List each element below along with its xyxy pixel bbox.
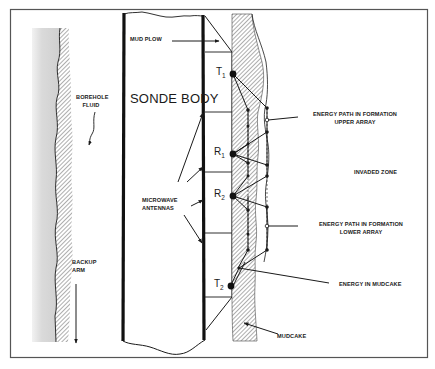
mudcake-label: MUDCAKE [277, 332, 306, 340]
antenna-subscript: 2 [220, 284, 224, 291]
antenna-r1 [230, 151, 237, 158]
antenna-label-r1: R1 [214, 146, 225, 159]
microwave-antennas-label-line1: MICROWAVE [142, 196, 178, 204]
antenna-r2 [230, 193, 237, 200]
mud-plow-label: MUD PLOW [130, 35, 162, 43]
backup-arm-label: BACKUP ARM [72, 258, 97, 274]
borehole-fluid-arrow [89, 112, 95, 145]
mudcake-band [232, 14, 264, 341]
borehole-fluid-label-line1: BOREHOLE [76, 93, 106, 101]
energy-lower-label: ENERGY PATH IN FORMATION LOWER ARRAY [306, 220, 416, 236]
borehole-fluid-label: BOREHOLE FLUID [76, 93, 106, 109]
energy-upper-label-line2: UPPER ARRAY [300, 118, 410, 126]
sonde-diagram [0, 0, 435, 369]
energy-upper-label: ENERGY PATH IN FORMATION UPPER ARRAY [300, 110, 410, 126]
microwave-antennas-label-line2: ANTENNAS [142, 204, 178, 212]
energy-lower-label-line2: LOWER ARRAY [306, 228, 416, 236]
antenna-t2 [228, 283, 235, 290]
energy-upper-label-line1: ENERGY PATH IN FORMATION [300, 110, 410, 118]
backup-arm-label-line2: ARM [72, 266, 97, 274]
borehole-wall [32, 28, 73, 342]
antenna-subscript: 1 [221, 152, 225, 159]
sonde-body [123, 12, 205, 354]
antenna-label-r2: R2 [214, 188, 225, 201]
invaded-zone-label: INVADED ZONE [354, 168, 397, 176]
antenna-label-t2: T2 [214, 278, 224, 291]
antenna-subscript: 2 [221, 194, 225, 201]
microwave-antennas-label: MICROWAVE ANTENNAS [142, 196, 178, 212]
antenna-subscript: 1 [222, 72, 226, 79]
antenna-label-t1: T1 [216, 66, 226, 79]
energy-in-mudcake-label: ENERGY IN MUDCAKE [339, 280, 402, 288]
borehole-fluid-label-line2: FLUID [76, 101, 106, 109]
energy-lower-label-line1: ENERGY PATH IN FORMATION [306, 220, 416, 228]
figure-frame [11, 10, 428, 358]
sonde-body-label: SONDE BODY [130, 91, 219, 106]
backup-arm-label-line1: BACKUP [72, 258, 97, 266]
antenna-t1 [230, 71, 237, 78]
